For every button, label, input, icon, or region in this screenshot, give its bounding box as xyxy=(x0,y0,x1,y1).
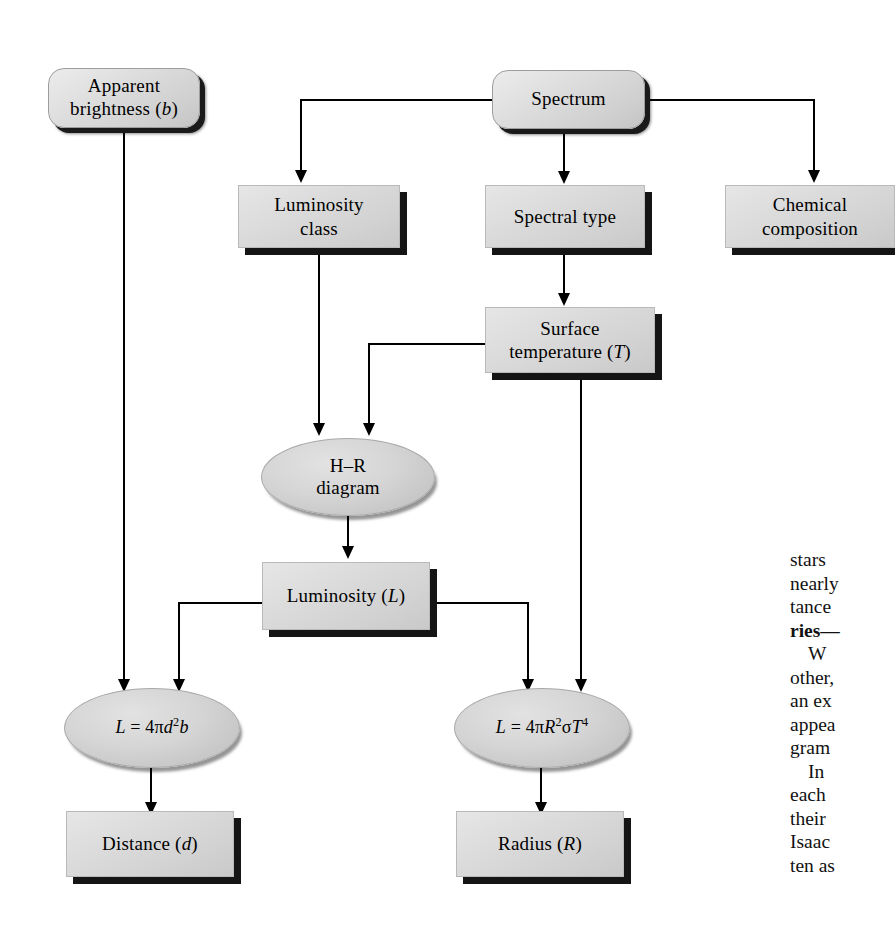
body-line-12: their xyxy=(790,807,885,831)
surface-temperature-label: Surface temperature (T) xyxy=(509,317,631,363)
luminosity-class-line2: class xyxy=(300,218,338,239)
body-line-2: nearly xyxy=(790,572,885,596)
apparent-brightness-line2-post: ) xyxy=(171,98,178,119)
hr-diagram-label: H–R diagram xyxy=(316,455,380,500)
apparent-brightness-line1: Apparent xyxy=(88,75,160,96)
equation-distance-b: b xyxy=(179,717,188,737)
edge-spectrum-to-chemical-vertical xyxy=(813,99,815,171)
edge-spectrum-to-luminosity-class-vertical xyxy=(300,99,302,171)
equation-radius-lhs: L xyxy=(496,717,506,737)
equation-radius-eq: = 4π xyxy=(506,717,544,737)
edge-hr-to-luminosity xyxy=(347,515,349,547)
distance-label-post: ) xyxy=(191,833,198,854)
surface-temperature-line1: Surface xyxy=(540,318,599,339)
spectral-type-label: Spectral type xyxy=(514,205,616,228)
chemical-composition-line2: composition xyxy=(762,218,858,239)
luminosity-variable: L xyxy=(388,585,399,606)
node-luminosity-class[interactable]: Luminosity class xyxy=(238,185,400,248)
distance-label-pre: Distance ( xyxy=(102,833,182,854)
arrowhead-surface-temperature xyxy=(558,293,570,306)
node-distance[interactable]: Distance (d) xyxy=(66,811,234,877)
equation-distance-lhs: L xyxy=(115,717,125,737)
edge-spectrum-to-spectral-type xyxy=(563,130,565,172)
node-radius[interactable]: Radius (R) xyxy=(456,811,624,877)
radius-label: Radius (R) xyxy=(498,832,582,855)
node-equation-radius[interactable]: L = 4πR2σT4 xyxy=(454,688,630,768)
body-line-4: ries— xyxy=(790,619,885,643)
edge-spectral-type-to-surface-temp xyxy=(563,250,565,294)
node-equation-distance[interactable]: L = 4πd2b xyxy=(64,688,240,768)
apparent-brightness-variable: b xyxy=(162,98,172,119)
surface-temperature-line2-pre: temperature ( xyxy=(509,341,613,362)
edge-apparent-brightness-to-equation-distance xyxy=(123,127,125,680)
body-line-5: W xyxy=(790,642,885,666)
node-spectral-type[interactable]: Spectral type xyxy=(485,185,645,248)
apparent-brightness-line2-pre: brightness ( xyxy=(70,98,162,119)
surface-temperature-variable: T xyxy=(614,341,625,362)
spectrum-label: Spectrum xyxy=(531,88,605,111)
luminosity-label-post: ) xyxy=(399,585,406,606)
luminosity-class-line1: Luminosity xyxy=(274,194,364,215)
body-line-6: other, xyxy=(790,666,885,690)
edge-spectrum-to-luminosity-class-horizontal xyxy=(300,99,494,101)
edge-luminosity-to-equation-radius-vertical xyxy=(527,602,529,680)
body-line-8: appea xyxy=(790,713,885,737)
luminosity-class-label: Luminosity class xyxy=(274,193,364,239)
luminosity-label: Luminosity (L) xyxy=(287,584,405,607)
arrowhead-chemical-composition xyxy=(808,170,820,183)
node-apparent-brightness[interactable]: Apparent brightness (b) xyxy=(48,68,200,128)
body-line-9: gram xyxy=(790,736,885,760)
luminosity-label-pre: Luminosity ( xyxy=(287,585,388,606)
equation-radius-label: L = 4πR2σT4 xyxy=(496,717,588,738)
edge-spectrum-to-chemical-horizontal xyxy=(645,99,815,101)
edge-luminosity-class-to-hr xyxy=(318,252,320,424)
body-line-14: ten as xyxy=(790,854,885,878)
node-surface-temperature[interactable]: Surface temperature (T) xyxy=(485,307,655,373)
hr-diagram-line1: H–R xyxy=(330,455,367,476)
arrowhead-luminosity xyxy=(342,546,354,559)
body-line-7: an ex xyxy=(790,689,885,713)
chemical-composition-line1: Chemical xyxy=(773,194,847,215)
edge-surface-temp-to-hr-vertical xyxy=(368,343,370,424)
body-line-4-bold: ries— xyxy=(790,620,840,641)
equation-distance-label: L = 4πd2b xyxy=(115,717,188,738)
edge-luminosity-to-equation-radius-horizontal xyxy=(425,602,529,604)
arrowhead-hr-from-surface-temp xyxy=(363,423,375,436)
apparent-brightness-label: Apparent brightness (b) xyxy=(70,75,178,121)
body-line-10: In xyxy=(790,760,885,784)
edge-luminosity-to-equation-distance-vertical xyxy=(178,602,180,680)
body-line-13: Isaac xyxy=(790,830,885,854)
edge-surface-temp-to-hr-horizontal xyxy=(368,343,486,345)
node-hr-diagram[interactable]: H–R diagram xyxy=(261,438,435,516)
equation-radius-T: T xyxy=(572,717,582,737)
node-spectrum[interactable]: Spectrum xyxy=(492,70,645,129)
node-chemical-composition[interactable]: Chemical composition xyxy=(725,185,895,248)
radius-variable: R xyxy=(564,833,576,854)
hr-diagram-line2: diagram xyxy=(316,477,380,498)
arrowhead-equation-radius-from-temp xyxy=(575,679,587,692)
arrowhead-hr-from-luminosity-class xyxy=(313,423,325,436)
distance-variable: d xyxy=(182,833,192,854)
body-line-11: each xyxy=(790,783,885,807)
arrowhead-luminosity-class xyxy=(295,170,307,183)
surface-temperature-line2-post: ) xyxy=(624,341,631,362)
edge-luminosity-to-equation-distance-horizontal xyxy=(178,602,268,604)
node-luminosity[interactable]: Luminosity (L) xyxy=(262,562,430,630)
equation-radius-exponent-2: 4 xyxy=(582,715,588,729)
radius-label-pre: Radius ( xyxy=(498,833,563,854)
body-text-column: stars nearly tance ries— W other, an ex … xyxy=(790,548,885,936)
distance-label: Distance (d) xyxy=(102,832,198,855)
equation-radius-sigma: σ xyxy=(562,717,572,737)
chemical-composition-label: Chemical composition xyxy=(762,193,858,239)
arrowhead-spectral-type xyxy=(558,171,570,184)
body-line-3: tance xyxy=(790,595,885,619)
equation-radius-R: R xyxy=(544,717,555,737)
edge-surface-temp-to-equation-radius xyxy=(580,375,582,680)
equation-distance-d: d xyxy=(164,717,173,737)
body-line-1: stars xyxy=(790,548,885,572)
radius-label-post: ) xyxy=(575,833,582,854)
equation-distance-eq: = 4π xyxy=(126,717,164,737)
